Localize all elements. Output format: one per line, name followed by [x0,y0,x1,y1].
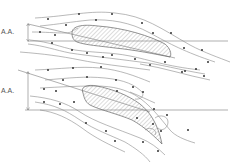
airfoil-diagram: A.A. [0,0,245,167]
angle-of-attack-label-top: A.A. [1,28,14,35]
airfoil-bottom [82,85,162,144]
angle-of-attack-label-bottom: A.A. [1,87,14,94]
bottom-panel: A.A. [1,64,228,162]
top-panel: A.A. [1,12,230,74]
